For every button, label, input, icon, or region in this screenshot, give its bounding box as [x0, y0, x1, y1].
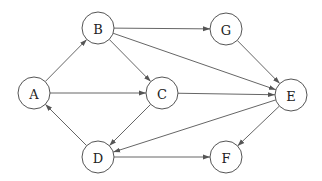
node-label: A: [28, 87, 39, 102]
node-c: C: [146, 77, 178, 109]
node-e: E: [275, 79, 307, 111]
node-b: B: [82, 12, 114, 44]
edge-b-to-g: [114, 28, 210, 29]
node-label: G: [221, 23, 231, 38]
edge-d-to-a: [45, 104, 86, 145]
node-label: B: [93, 22, 103, 37]
edge-e-to-d: [113, 100, 276, 152]
edge-b-to-c: [109, 39, 151, 81]
edge-g-to-e: [237, 40, 280, 83]
edge-c-to-e: [178, 93, 275, 95]
graph-canvas: ABGCEDF: [0, 0, 322, 181]
node-g: G: [210, 13, 242, 45]
node-label: F: [221, 151, 230, 166]
node-a: A: [18, 77, 50, 109]
node-d: D: [82, 141, 114, 173]
node-f: F: [210, 141, 242, 173]
node-label: E: [286, 89, 296, 104]
node-label: C: [157, 87, 167, 102]
edge-c-to-d: [109, 104, 150, 145]
edge-b-to-e: [113, 33, 276, 90]
node-label: D: [93, 151, 103, 166]
edge-e-to-f: [238, 106, 280, 146]
edge-a-to-b: [45, 39, 87, 81]
